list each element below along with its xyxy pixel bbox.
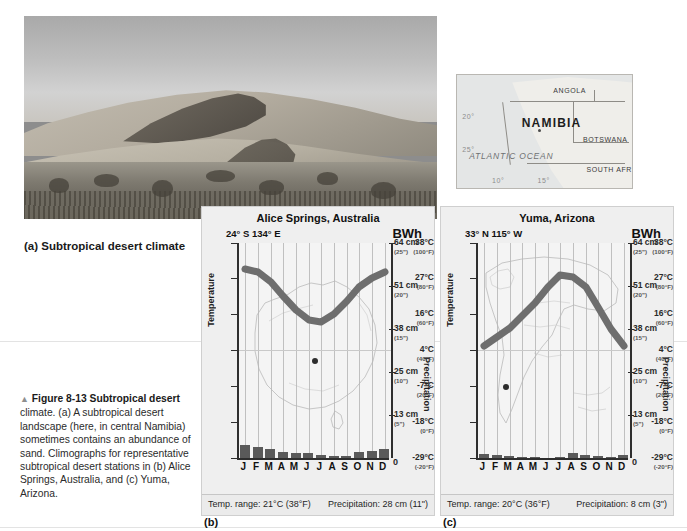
month-label: N: [364, 461, 376, 472]
caption-triangle-icon: ▲: [20, 394, 29, 404]
figure-caption: ▲ Figure 8-13 Subtropical desert climate…: [20, 392, 198, 500]
climograph-footer: Temp. range: 20°C (36°F) Precipitation: …: [441, 494, 673, 515]
temperature-curve: [239, 243, 391, 458]
photo-scrub: [317, 172, 338, 184]
map-lon-tick-15: 15°: [538, 177, 550, 184]
precip-total-text: Precipitation: 8 cm (3"): [576, 499, 667, 509]
month-label: A: [514, 461, 526, 472]
textbook-page: ANGOLA NAMIBIA BOTSWANA SOUTH AFRICA ATL…: [0, 0, 687, 531]
month-label: M: [502, 461, 514, 472]
map-lat-tick-20: 20°: [462, 113, 474, 120]
month-label: O: [590, 461, 602, 472]
map-label-south-africa: SOUTH AFRICA: [587, 165, 627, 174]
precip-tick-label: 51 cm(20"): [633, 281, 675, 299]
month-label: F: [250, 461, 262, 472]
climograph-alice-springs: Alice Springs, Australia 24° S 134° E BW…: [201, 206, 435, 516]
temp-range-text: Temp. range: 20°C (36°F): [447, 499, 550, 509]
plot-baseline: [237, 458, 389, 460]
climograph-plot-area: [476, 243, 632, 458]
precip-total-text: Precipitation: 28 cm (11"): [328, 499, 428, 509]
climograph-footer: Temp. range: 21°C (38°F) Precipitation: …: [202, 494, 434, 515]
axis-title-temperature: Temperature: [445, 273, 455, 327]
precip-tick-label: 13 cm(5"): [633, 410, 675, 428]
climograph-title: Yuma, Arizona: [441, 212, 673, 224]
map-label-angola: ANGOLA: [553, 87, 586, 94]
precip-tick-label: 64 cm(25"): [633, 238, 675, 256]
climograph-coordinates: 24° S 134° E: [226, 228, 281, 239]
month-label: D: [616, 461, 628, 472]
photo-scrub: [94, 174, 119, 186]
precip-bar: [367, 451, 377, 458]
photo-scrub: [259, 180, 284, 194]
precip-bar: [379, 449, 389, 459]
figure-number: Figure 8-13: [32, 393, 87, 404]
climograph-title: Alice Springs, Australia: [202, 212, 434, 224]
plot-baseline: [476, 458, 628, 460]
climograph-plot-area: [237, 243, 393, 458]
month-label: N: [603, 461, 615, 472]
temperature-curve: [478, 243, 630, 458]
month-label: D: [377, 461, 389, 472]
figure-caption-body: climate. (a) A subtropical desert landsc…: [20, 407, 191, 498]
climograph-coordinates: 33° N 115° W: [465, 228, 522, 239]
map-border-zambia: [594, 90, 595, 102]
map-border-south-africa: [527, 163, 625, 164]
month-label: F: [489, 461, 501, 472]
photo-scrub: [371, 182, 396, 198]
precip-tick-label: 25 cm(10"): [633, 367, 675, 385]
map-border-angola: [510, 101, 626, 102]
map-label-atlantic-ocean: ATLANTIC OCEAN: [469, 151, 521, 161]
month-label: J: [476, 461, 488, 472]
temp-tick-label: 4°C(40°F): [641, 345, 673, 363]
month-label: J: [540, 461, 552, 472]
subtropical-desert-landscape-photo: [24, 16, 437, 219]
map-lon-tick-10: 10°: [492, 177, 504, 184]
temp-tick-label: -29°C(-20°F): [641, 453, 673, 471]
month-label: S: [339, 461, 351, 472]
month-axis: J F M A M J J A S O N D: [237, 461, 389, 475]
month-label: M: [527, 461, 539, 472]
precip-tick-label-zero: 0: [393, 457, 398, 467]
month-label: J: [313, 461, 325, 472]
month-axis: J F M A M J J A S O N D: [476, 461, 628, 475]
temp-tick-label: -29°C(-20°F): [402, 453, 434, 471]
temp-range-text: Temp. range: 21°C (38°F): [208, 499, 311, 509]
precip-tick-label: 13 cm(5"): [394, 410, 436, 428]
month-label: O: [351, 461, 363, 472]
map-label-botswana: BOTSWANA: [583, 136, 628, 143]
month-label: J: [552, 461, 564, 472]
map-station-dot: [538, 129, 541, 132]
map-label-namibia: NAMIBIA: [522, 116, 582, 130]
month-label: M: [288, 461, 300, 472]
climograph-yuma: Yuma, Arizona 33° N 115° W BWh Temperatu…: [440, 206, 674, 516]
precip-bar: [253, 447, 263, 458]
month-label: J: [237, 461, 249, 472]
page-rule: [0, 527, 687, 528]
month-label: A: [275, 461, 287, 472]
figure-caption-lead: Subtropical desert: [90, 393, 180, 404]
precip-bar: [265, 449, 275, 458]
month-label: S: [578, 461, 590, 472]
namibia-locator-map: ANGOLA NAMIBIA BOTSWANA SOUTH AFRICA ATL…: [456, 74, 633, 189]
precip-tick-label: 25 cm(10"): [394, 367, 436, 385]
photo-scrub: [206, 170, 235, 182]
photo-scrub: [49, 178, 70, 192]
month-label: A: [565, 461, 577, 472]
month-label: A: [326, 461, 338, 472]
photo-caption: (a) Subtropical desert climate: [24, 240, 185, 252]
precip-tick-label: 64 cm(25"): [394, 238, 436, 256]
panel-letter-c: (c): [443, 516, 456, 528]
panel-letter-b: (b): [204, 516, 218, 528]
month-label: J: [301, 461, 313, 472]
precip-bar: [240, 445, 250, 458]
precip-tick-label: 38 cm(15"): [394, 324, 436, 342]
axis-title-temperature: Temperature: [206, 273, 216, 327]
photo-scrub: [152, 180, 173, 196]
precip-tick-label: 38 cm(15"): [633, 324, 675, 342]
precip-tick-label-zero: 0: [632, 457, 637, 467]
month-label: M: [263, 461, 275, 472]
map-lat-tick-25: 25°: [462, 146, 474, 153]
precip-tick-label: 51 cm(20"): [394, 281, 436, 299]
temp-tick-label: 4°C(40°F): [402, 345, 434, 363]
